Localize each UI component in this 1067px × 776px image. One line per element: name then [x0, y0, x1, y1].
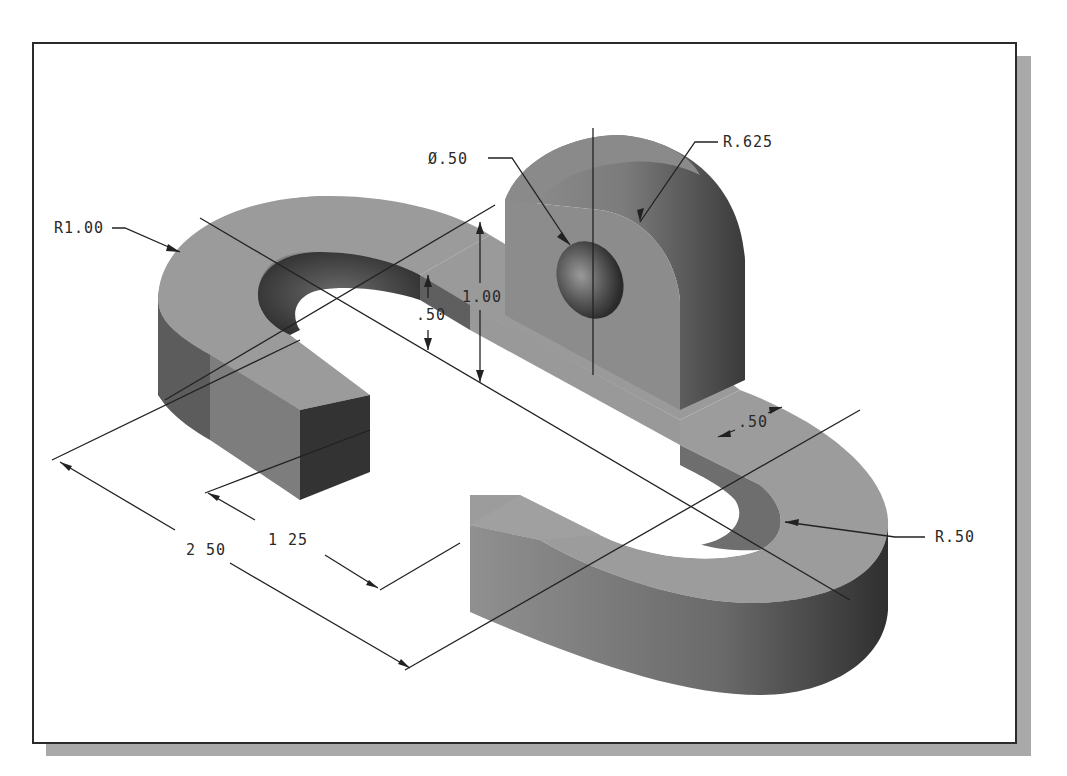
- left-hook: [158, 196, 490, 500]
- part-drawing: R1.00 Ø.50 R.625 1.00 .50 .50 R.50 1 25 …: [0, 0, 1067, 776]
- dim-boss-radius: R.625: [723, 133, 773, 151]
- dim-hole-diameter: Ø.50: [428, 150, 468, 168]
- dim-total-height: 1.00: [462, 288, 502, 306]
- dim-outer-radius: R1.00: [54, 219, 104, 237]
- dim-inner-radius: R.50: [935, 528, 975, 546]
- dim-base-thickness: .50: [416, 306, 446, 324]
- dim-opening-length: 1 25: [268, 531, 308, 549]
- dim-wall-width: .50: [738, 413, 768, 431]
- dim-overall-length: 2 50: [186, 541, 226, 559]
